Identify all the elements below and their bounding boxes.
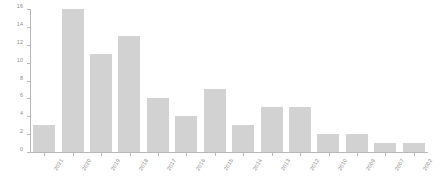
bar-slot	[58, 8, 86, 152]
x-axis-tick-label: 2010	[337, 158, 348, 172]
x-axis-tick-mark	[130, 153, 131, 156]
x-axis-tick-mark	[101, 153, 102, 156]
y-axis-tick-label: 6	[20, 93, 23, 98]
bar[interactable]	[147, 98, 169, 152]
x-axis-tick-mark	[186, 153, 187, 156]
bar[interactable]	[289, 107, 311, 152]
x-axis-tick-mark	[329, 153, 330, 156]
bar[interactable]	[232, 125, 254, 152]
bar-slot	[115, 8, 143, 152]
bar-slot	[30, 8, 58, 152]
bar-slot	[343, 8, 371, 152]
y-axis-tick-label: 10	[17, 58, 23, 63]
x-axis-tick-mark	[357, 153, 358, 156]
bar[interactable]	[346, 134, 368, 152]
bar-slot	[371, 8, 399, 152]
x-axis-tick-label: 2009	[366, 158, 377, 172]
bar-slot	[87, 8, 115, 152]
bar[interactable]	[90, 54, 112, 152]
bar-slot	[286, 8, 314, 152]
x-axis-tick-label: 2002	[423, 158, 434, 172]
x-axis-tick-mark	[215, 153, 216, 156]
x-axis-tick-label: 2018	[138, 158, 149, 172]
y-axis-tick-label: 0	[20, 147, 23, 152]
bar-slot	[229, 8, 257, 152]
y-axis-tick-label: 4	[20, 111, 23, 116]
bar[interactable]	[33, 125, 55, 152]
bar-slot	[257, 8, 285, 152]
y-axis-tick-label: 12	[17, 40, 23, 45]
bar-chart: 0246810121416 20212020201920182017201620…	[0, 0, 446, 188]
bar[interactable]	[62, 9, 84, 152]
bar[interactable]	[403, 143, 425, 152]
y-axis-tick-mark	[27, 152, 30, 153]
y-axis-tick-label: 14	[17, 22, 23, 27]
bar-slot	[201, 8, 229, 152]
y-axis-tick-label: 16	[17, 4, 23, 9]
bar[interactable]	[317, 134, 339, 152]
bar[interactable]	[374, 143, 396, 152]
x-axis-line	[30, 152, 428, 153]
x-axis-tick-mark	[44, 153, 45, 156]
x-axis-tick-label: 2014	[252, 158, 263, 172]
x-axis-tick-mark	[158, 153, 159, 156]
y-axis-tick-label: 2	[20, 129, 23, 134]
x-axis-tick-label: 2013	[281, 158, 292, 172]
bar-slot	[172, 8, 200, 152]
x-axis-tick-label: 2012	[309, 158, 320, 172]
x-axis-tick-label: 2016	[195, 158, 206, 172]
x-axis-tick-mark	[272, 153, 273, 156]
x-axis-tick-mark	[73, 153, 74, 156]
plot-area	[31, 8, 428, 152]
x-axis-tick-label: 2021	[53, 158, 64, 172]
x-axis-tick-mark	[414, 153, 415, 156]
bar[interactable]	[261, 107, 283, 152]
x-axis-tick-mark	[243, 153, 244, 156]
x-axis-tick-mark	[385, 153, 386, 156]
x-axis-tick-label: 2007	[394, 158, 405, 172]
x-axis-tick-mark	[300, 153, 301, 156]
bar-slot	[314, 8, 342, 152]
x-axis-tick-label: 2017	[167, 158, 178, 172]
bar[interactable]	[175, 116, 197, 152]
bar[interactable]	[204, 89, 226, 152]
bar[interactable]	[118, 36, 140, 152]
x-axis-tick-label: 2020	[82, 158, 93, 172]
bar-slot	[144, 8, 172, 152]
x-axis-tick-label: 2015	[224, 158, 235, 172]
x-axis-tick-label: 2019	[110, 158, 121, 172]
y-axis-tick-label: 8	[20, 76, 23, 81]
bar-slot	[400, 8, 428, 152]
